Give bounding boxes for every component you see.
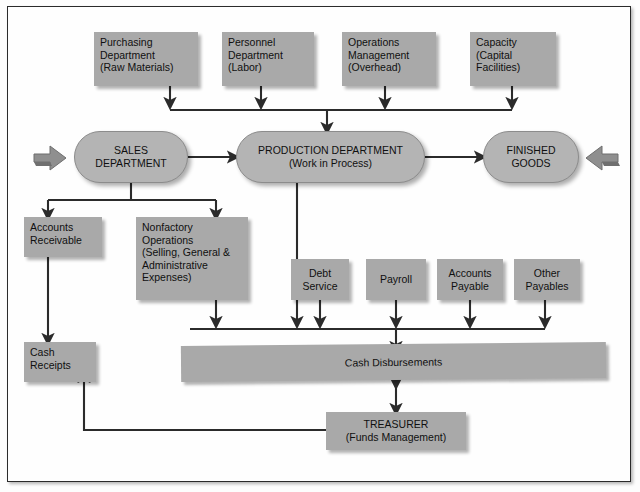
node-sales-department[interactable]: SALES DEPARTMENT (74, 131, 188, 183)
outflow-block-arrow-icon (578, 140, 624, 176)
node-line: Operations (348, 36, 430, 49)
node-line: (Raw Materials) (100, 61, 192, 74)
node-line: Receipts (30, 359, 90, 372)
node-line: Cash Disbursements (345, 355, 443, 369)
node-personnel-department[interactable]: Personnel Department (Labor) (222, 32, 314, 86)
node-line: Purchasing (100, 36, 192, 49)
node-line: Capacity (476, 36, 550, 49)
node-line: Payroll (380, 273, 412, 286)
node-line: Payable (451, 280, 489, 293)
node-line: (Funds Management) (346, 431, 446, 444)
node-line: Nonfactory (142, 221, 242, 234)
node-cash-receipts[interactable]: Cash Receipts (24, 342, 96, 382)
node-accounts-receivable[interactable]: Accounts Receivable (24, 217, 102, 257)
node-line: (Work in Process) (289, 157, 372, 170)
node-line: (Labor) (228, 61, 308, 74)
node-line: Accounts (448, 267, 491, 280)
node-operations-management[interactable]: Operations Management (Overhead) (342, 32, 436, 86)
node-line: (Overhead) (348, 61, 430, 74)
node-line: Accounts (30, 221, 96, 234)
node-line: Administrative (142, 259, 242, 272)
node-payroll[interactable]: Payroll (366, 259, 426, 300)
node-line: Service (302, 280, 337, 293)
node-line: FINISHED (506, 144, 555, 157)
node-line: Operations (142, 234, 242, 247)
node-line: Department (100, 49, 192, 62)
node-line: TREASURER (364, 418, 429, 431)
node-line: Cash (30, 346, 90, 359)
node-line: Debt (309, 267, 331, 280)
node-line: Payables (525, 280, 568, 293)
node-line: SALES (114, 144, 148, 157)
node-line: Department (228, 49, 308, 62)
node-capacity[interactable]: Capacity (Capital Facilities) (470, 32, 556, 86)
node-line: (Capital (476, 49, 550, 62)
flowchart-page: Purchasing Department (Raw Materials) Pe… (0, 0, 640, 492)
node-line: PRODUCTION DEPARTMENT (258, 144, 403, 157)
node-line: Receivable (30, 234, 96, 247)
node-line: Facilities) (476, 61, 550, 74)
node-treasurer[interactable]: TREASURER (Funds Management) (326, 412, 466, 450)
node-production-department[interactable]: PRODUCTION DEPARTMENT (Work in Process) (236, 131, 425, 183)
node-line: GOODS (511, 157, 550, 170)
node-line: Personnel (228, 36, 308, 49)
node-purchasing-department[interactable]: Purchasing Department (Raw Materials) (94, 32, 198, 86)
edge-treasurer-to-cash-receipts (84, 374, 326, 430)
inflow-block-arrow-icon (28, 140, 74, 176)
node-cash-disbursements[interactable]: Cash Disbursements (181, 342, 606, 382)
node-line: Management (348, 49, 430, 62)
sales-branch-bar (48, 183, 216, 200)
node-nonfactory-operations[interactable]: Nonfactory Operations (Selling, General … (136, 217, 248, 300)
node-line: Other (534, 267, 560, 280)
node-line: DEPARTMENT (95, 157, 166, 170)
node-accounts-payable[interactable]: Accounts Payable (437, 259, 503, 300)
node-other-payables[interactable]: Other Payables (514, 259, 580, 300)
node-line: Expenses) (142, 271, 242, 284)
node-line: (Selling, General & (142, 246, 242, 259)
node-debt-service[interactable]: Debt Service (291, 259, 349, 300)
node-finished-goods[interactable]: FINISHED GOODS (483, 131, 579, 183)
